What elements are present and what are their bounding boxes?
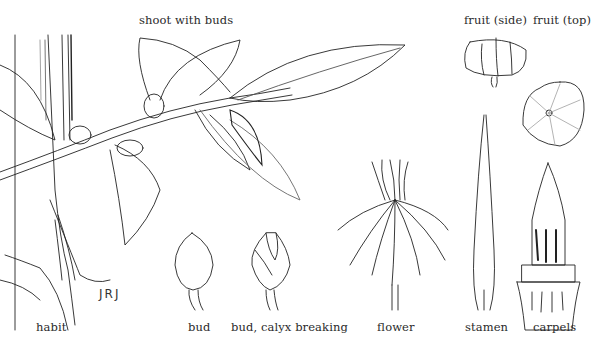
fruit-top-drawing: [523, 82, 584, 146]
label-flower: flower: [377, 320, 415, 334]
fruit-side-drawing: [465, 38, 527, 87]
artist-signature: JRJ: [99, 287, 120, 301]
shoot-drawing: [0, 38, 405, 245]
label-carpels: carpels: [533, 320, 576, 334]
habit-trunk-drawing: [0, 35, 110, 330]
bud-calyx-drawing: [252, 233, 290, 310]
bud-drawing: [175, 233, 213, 310]
carpels-drawing: [517, 163, 580, 330]
label-stamen: stamen: [465, 320, 508, 334]
illustration-art: [0, 0, 604, 343]
label-fruit-side: fruit (side): [464, 13, 527, 27]
label-habit: habit: [36, 320, 66, 334]
label-bud: bud: [188, 320, 210, 334]
label-bud-calyx-breaking: bud, calyx breaking: [231, 320, 348, 334]
stamen-drawing: [474, 115, 495, 310]
flower-drawing: [338, 160, 448, 310]
botanical-plate: shoot with buds fruit (side) fruit (top)…: [0, 0, 604, 343]
label-fruit-top: fruit (top): [533, 13, 591, 27]
label-shoot-with-buds: shoot with buds: [139, 13, 233, 27]
